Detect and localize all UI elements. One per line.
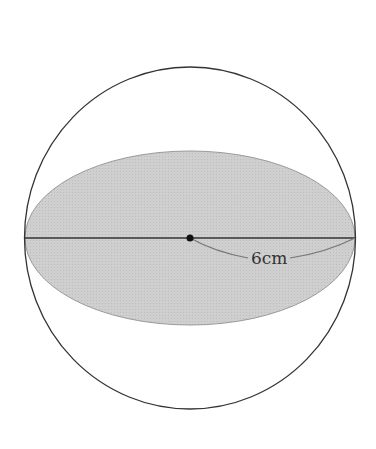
sphere-diagram: 6cm: [0, 0, 376, 449]
center-point: [187, 235, 194, 242]
radius-label: 6cm: [251, 248, 287, 268]
